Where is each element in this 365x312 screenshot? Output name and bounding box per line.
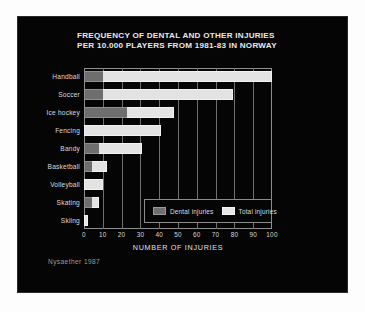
x-tick-30: 30 (137, 231, 145, 238)
x-tick-90: 90 (249, 231, 257, 238)
bar-segment-total (84, 125, 161, 136)
x-tick-40: 40 (155, 231, 163, 238)
x-tick-100: 100 (266, 231, 277, 238)
category-label-volleyball: Volleyball (50, 181, 80, 188)
x-tick-20: 20 (118, 231, 126, 238)
legend-item-total: Total injuries (222, 207, 277, 215)
category-label-soccer: Soccer (58, 91, 80, 98)
x-tick-80: 80 (231, 231, 239, 238)
x-tick-60: 60 (193, 231, 201, 238)
x-tick-70: 70 (212, 231, 220, 238)
chart-credit: Nysaether 1987 (48, 258, 100, 265)
legend-label-total: Total injuries (239, 208, 277, 215)
bar-segment-dental (84, 197, 92, 208)
category-label-fencing: Fencing (55, 127, 80, 134)
bar-segment-dental (84, 107, 127, 118)
bar-segment-dental (84, 161, 92, 172)
x-tick-0: 0 (82, 231, 86, 238)
category-axis-labels: HandballSoccerIce hockeyFencingBandyBask… (0, 68, 80, 229)
category-label-bandy: Bandy (60, 145, 80, 152)
category-label-skiing: Skiing (61, 217, 80, 224)
category-label-handball: Handball (52, 73, 80, 80)
bar-segment-total (84, 71, 272, 82)
legend-swatch-total-icon (222, 207, 235, 215)
category-label-skating: Skating (57, 199, 80, 206)
bar-segment-total (84, 215, 88, 226)
x-axis-tick-labels: 0102030405060708090100 (84, 231, 272, 243)
chart-legend: Dental injuries Total injuries (144, 199, 272, 223)
legend-item-dental: Dental injuries (153, 207, 214, 215)
bar-segment-dental (84, 89, 103, 100)
legend-label-dental: Dental injuries (170, 208, 214, 215)
category-label-ice-hockey: Ice hockey (46, 109, 80, 116)
category-label-basketball: Basketball (48, 163, 80, 170)
x-tick-10: 10 (99, 231, 107, 238)
bar-segment-total (84, 89, 233, 100)
bar-segment-total (84, 179, 103, 190)
chart-title: FREQUENCY OF DENTAL AND OTHER INJURIES P… (77, 31, 317, 52)
bar-segment-dental (84, 71, 103, 82)
x-tick-50: 50 (174, 231, 182, 238)
chart-title-line-2: PER 10.000 PLAYERS FROM 1981-83 IN NORWA… (77, 41, 317, 51)
chart-title-line-1: FREQUENCY OF DENTAL AND OTHER INJURIES (77, 31, 317, 41)
chart-page: FREQUENCY OF DENTAL AND OTHER INJURIES P… (0, 0, 365, 312)
bar-segment-dental (84, 143, 99, 154)
legend-swatch-dental-icon (153, 207, 166, 215)
x-axis-title: NUMBER OF INJURIES (84, 243, 272, 252)
